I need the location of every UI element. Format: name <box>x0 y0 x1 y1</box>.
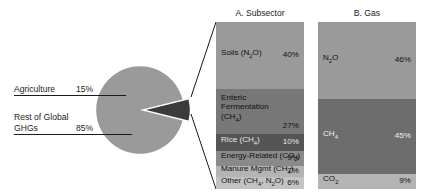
panel-b-title: B. Gas <box>318 8 416 18</box>
segment-manure-mgmt-ch4-value: 7% <box>287 167 299 177</box>
segment-rice-ch4: Rice (CH4) 10% <box>216 134 304 151</box>
segment-ch4-value: 45% <box>395 132 411 142</box>
segment-enteric-fermentation-ch4: Enteric Fermentation (CH4) 27% <box>216 89 304 134</box>
subsector-stacked-column: Soils (N2O) 40% Enteric Fermentation (CH… <box>216 22 304 189</box>
segment-rice-ch4-label: Rice (CH4) <box>221 136 260 149</box>
segment-co2-label: CO2 <box>323 175 338 188</box>
segment-manure-mgmt-ch4: Manure Mgmt (CH4) 7% <box>216 166 304 178</box>
agriculture-value: 15% <box>76 84 93 95</box>
segment-soils-n2o-value: 40% <box>283 51 299 61</box>
rest-of-global-ghgs-label-line1: Rest of Global <box>14 112 68 122</box>
segment-other-ch4-n2o: Other (CH4, N2O) 6% <box>216 177 304 189</box>
segment-co2-value: 9% <box>399 177 411 187</box>
agriculture-ghg-figure: Agriculture 15% Rest of Global GHGs 85% … <box>0 0 433 196</box>
ghg-pie-chart <box>88 58 192 162</box>
segment-energy-related-co2-value: 9% <box>287 153 299 163</box>
segment-n2o: N2O 46% <box>318 22 416 99</box>
panel-a-title: A. Subsector <box>216 8 304 18</box>
rest-of-global-ghgs-value: 85% <box>76 123 93 134</box>
segment-ch4: CH4 45% <box>318 99 416 174</box>
segment-n2o-value: 46% <box>395 56 411 66</box>
rest-of-global-ghgs-leader-line <box>14 134 132 135</box>
segment-enteric-fermentation-ch4-label: Enteric Fermentation (CH4) <box>221 93 269 125</box>
segment-soils-n2o: Soils (N2O) 40% <box>216 22 304 89</box>
segment-other-ch4-n2o-value: 6% <box>287 178 299 188</box>
agriculture-leader-line <box>14 95 126 96</box>
segment-n2o-label: N2O <box>323 54 338 67</box>
segment-energy-related-co2: Energy-Related (CO2) 9% <box>216 151 304 166</box>
segment-soils-n2o-label: Soils (N2O) <box>221 49 262 62</box>
rest-of-global-ghgs-callout: Rest of Global GHGs 85% <box>14 112 134 133</box>
segment-ch4-label: CH4 <box>323 130 338 143</box>
segment-rice-ch4-value: 10% <box>283 137 299 147</box>
segment-enteric-fermentation-ch4-value: 27% <box>283 121 299 131</box>
agriculture-callout: Agriculture 15% <box>14 84 134 95</box>
rest-of-global-ghgs-label-line2: GHGs <box>14 123 38 133</box>
agriculture-label: Agriculture <box>14 84 55 94</box>
segment-co2: CO2 9% <box>318 174 416 189</box>
gas-stacked-column: N2O 46% CH4 45% CO2 9% <box>318 22 416 189</box>
segment-other-ch4-n2o-label: Other (CH4, N2O) <box>221 177 284 189</box>
